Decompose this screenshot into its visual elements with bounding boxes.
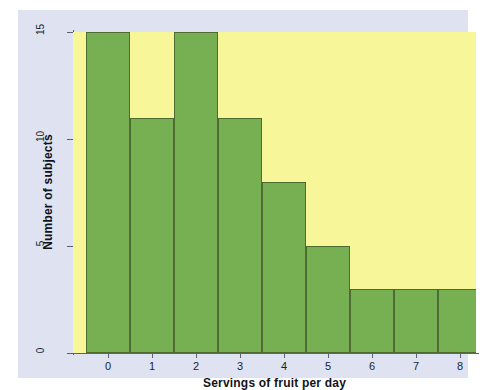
- x-tick-mark-1: [152, 353, 153, 358]
- bar-8: [438, 289, 476, 353]
- y-tick-label-15: 15: [35, 10, 46, 50]
- x-tick-label-6: 6: [350, 360, 394, 372]
- bar-4: [262, 182, 306, 353]
- x-axis-title: Servings of fruit per day: [73, 376, 476, 390]
- x-axis-line: [70, 353, 479, 354]
- x-tick-mark-0: [108, 353, 109, 358]
- bar-0: [86, 32, 130, 353]
- x-tick-label-4: 4: [262, 360, 306, 372]
- chart-frame: Number of subjects 051015 012345678 Serv…: [18, 10, 468, 378]
- x-tick-label-7: 7: [394, 360, 438, 372]
- bar-6: [350, 289, 394, 353]
- y-tick-label-10: 10: [35, 117, 46, 157]
- x-tick-label-2: 2: [174, 360, 218, 372]
- bar-5: [306, 246, 350, 353]
- x-tick-label-8: 8: [438, 360, 482, 372]
- x-tick-mark-4: [284, 353, 285, 358]
- bar-3: [218, 118, 262, 353]
- y-tick-mark-0: [67, 353, 73, 354]
- x-tick-label-5: 5: [306, 360, 350, 372]
- x-tick-mark-7: [416, 353, 417, 358]
- x-tick-label-1: 1: [130, 360, 174, 372]
- bar-1: [130, 118, 174, 353]
- y-tick-label-0: 0: [35, 331, 46, 371]
- x-tick-label-0: 0: [86, 360, 130, 372]
- bar-2: [174, 32, 218, 353]
- x-tick-mark-6: [372, 353, 373, 358]
- x-tick-mark-5: [328, 353, 329, 358]
- x-tick-mark-3: [240, 353, 241, 358]
- x-tick-mark-2: [196, 353, 197, 358]
- x-tick-label-3: 3: [218, 360, 262, 372]
- plot-area: [73, 32, 476, 353]
- x-tick-mark-8: [460, 353, 461, 358]
- bar-7: [394, 289, 438, 353]
- y-tick-label-5: 5: [35, 224, 46, 264]
